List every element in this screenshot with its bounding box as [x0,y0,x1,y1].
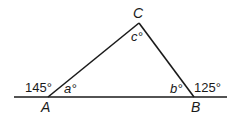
vertex-label-c: C [133,6,143,20]
angle-label-a: a° [64,82,76,95]
side-ac [48,23,139,97]
vertex-label-a: A [41,100,50,114]
angle-label-b: b° [170,82,182,95]
triangle-diagram: C c° 145° a° A b° 125° B [0,0,239,118]
side-cb [139,23,194,97]
vertex-label-b: B [191,100,200,114]
exterior-angle-b: 125° [194,81,221,94]
angle-label-c: c° [131,30,143,43]
exterior-angle-a: 145° [25,81,52,94]
triangle-figure [0,0,239,118]
